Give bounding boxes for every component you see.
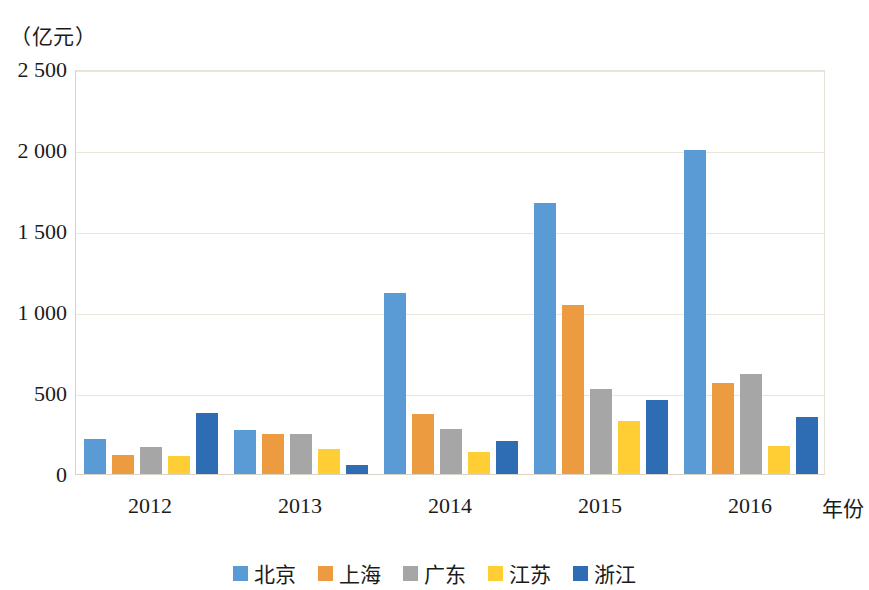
x-axis-tick-label: 2016: [675, 493, 825, 519]
bar[interactable]: [618, 421, 640, 474]
x-axis-title: 年份: [822, 492, 864, 522]
y-axis-unit-label: （亿元）: [10, 20, 96, 50]
bar[interactable]: [562, 305, 584, 474]
bar[interactable]: [112, 455, 134, 474]
legend-item[interactable]: 广东: [403, 558, 466, 588]
legend-swatch-icon: [403, 566, 418, 581]
bar[interactable]: [684, 150, 706, 474]
bar-group: [234, 71, 368, 474]
legend-swatch-icon: [233, 566, 248, 581]
bar[interactable]: [768, 446, 790, 474]
bar[interactable]: [168, 456, 190, 474]
bar[interactable]: [234, 430, 256, 474]
bar[interactable]: [290, 434, 312, 475]
legend-swatch-icon: [318, 566, 333, 581]
legend-item[interactable]: 江苏: [488, 558, 551, 588]
legend-label: 上海: [339, 558, 381, 588]
bar-group: [534, 71, 668, 474]
legend-swatch-icon: [573, 566, 588, 581]
bar[interactable]: [262, 434, 284, 475]
bar[interactable]: [440, 429, 462, 474]
legend-item[interactable]: 北京: [233, 558, 296, 588]
bar-group: [384, 71, 518, 474]
legend: 北京上海广东江苏浙江: [0, 558, 869, 588]
bar[interactable]: [140, 447, 162, 474]
x-axis-tick-label: 2013: [225, 493, 375, 519]
bar[interactable]: [740, 374, 762, 474]
bar[interactable]: [646, 400, 668, 474]
x-axis-tick-label: 2014: [375, 493, 525, 519]
y-axis-tick-label: 2 000: [0, 138, 67, 164]
bar[interactable]: [468, 452, 490, 474]
bar[interactable]: [412, 414, 434, 474]
legend-label: 北京: [254, 558, 296, 588]
bar[interactable]: [84, 439, 106, 474]
x-axis-tick-label: 2012: [75, 493, 225, 519]
legend-swatch-icon: [488, 566, 503, 581]
bar[interactable]: [346, 465, 368, 474]
y-axis-tick-label: 1 500: [0, 219, 67, 245]
bar-group: [684, 71, 818, 474]
y-axis-tick-label: 2 500: [0, 57, 67, 83]
bar[interactable]: [196, 413, 218, 474]
y-axis-tick-label: 1 000: [0, 300, 67, 326]
bar[interactable]: [712, 383, 734, 474]
bar[interactable]: [318, 449, 340, 474]
bar[interactable]: [384, 293, 406, 474]
y-axis-tick-label: 500: [0, 381, 67, 407]
legend-label: 浙江: [594, 558, 636, 588]
chart-page: （亿元） 05001 0001 5002 0002 500 2012201320…: [0, 0, 869, 590]
plot-area: [75, 70, 825, 475]
bar-group: [84, 71, 218, 474]
bar[interactable]: [796, 417, 818, 474]
x-axis-tick-label: 2015: [525, 493, 675, 519]
bar[interactable]: [496, 441, 518, 474]
bar[interactable]: [534, 203, 556, 474]
legend-label: 江苏: [509, 558, 551, 588]
y-axis-tick-label: 0: [0, 462, 67, 488]
legend-label: 广东: [424, 558, 466, 588]
bar[interactable]: [590, 389, 612, 474]
legend-item[interactable]: 浙江: [573, 558, 636, 588]
legend-item[interactable]: 上海: [318, 558, 381, 588]
